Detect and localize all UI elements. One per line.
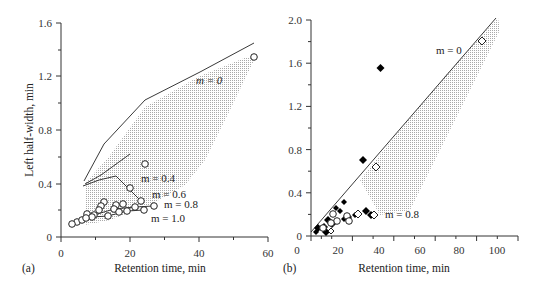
x-tick-label: 20 <box>125 247 137 259</box>
y-tick-label: 0.4 <box>288 187 302 199</box>
annotation-m0-b: m = 0 <box>436 44 462 56</box>
panel-b: 2.0 1.6 1.2 0.8 0.4 0 0 20 40 60 80 100 … <box>283 14 518 275</box>
x-tick-label: 0 <box>294 244 300 256</box>
x-axis-title-b: Retention time, min <box>358 262 450 275</box>
y-tick-label: 0.8 <box>38 124 52 136</box>
x-tick-label: 40 <box>374 244 386 256</box>
y-tick-label: 1.2 <box>38 70 52 82</box>
x-tick-label: 80 <box>454 244 466 256</box>
y-tick-label: 1.6 <box>38 17 52 29</box>
y-tick-label: 0.8 <box>288 144 302 156</box>
y-tick-label: 0 <box>297 230 303 242</box>
x-tick-label: 0 <box>58 247 64 259</box>
y-tick-label: 1.2 <box>288 100 302 112</box>
y-ticks-a <box>56 23 61 237</box>
y-tick-label: 2.0 <box>288 14 302 26</box>
x-tick-label: 60 <box>263 247 275 259</box>
y-tick-label: 0 <box>47 231 53 243</box>
open-circle-markers-b <box>320 211 353 232</box>
x-tick-label: 100 <box>489 244 506 256</box>
x-ticks-a <box>61 237 268 242</box>
panel-label-b: (b) <box>283 262 297 275</box>
annotation-m10: m = 1.0 <box>151 212 186 224</box>
annotation-m0-a: m = 0 <box>196 74 223 86</box>
x-axis-title-a: Retention time, min <box>114 262 206 275</box>
y-axis-title-a: Left half-width, min <box>23 83 36 177</box>
panel-label-a: (a) <box>22 262 35 275</box>
filled-diamond-markers <box>313 64 385 236</box>
x-tick-label: 20 <box>333 244 345 256</box>
y-tick-label: 0.4 <box>38 178 52 190</box>
annotation-m08-b: m = 0.8 <box>385 208 420 220</box>
x-tick-label: 60 <box>415 244 427 256</box>
figure: 1.6 1.2 0.8 0.4 0 0 20 40 60 Retention t… <box>0 0 548 285</box>
x-ticks-b <box>311 236 518 241</box>
y-ticks-b <box>306 20 311 236</box>
shaded-region-b <box>360 18 500 215</box>
x-tick-label: 40 <box>194 247 206 259</box>
annotation-m08-a: m = 0.8 <box>164 198 199 210</box>
panel-a: 1.6 1.2 0.8 0.4 0 0 20 40 60 Retention t… <box>22 17 274 275</box>
annotation-m04: m = 0.4 <box>141 172 176 184</box>
y-tick-label: 1.6 <box>288 57 302 69</box>
